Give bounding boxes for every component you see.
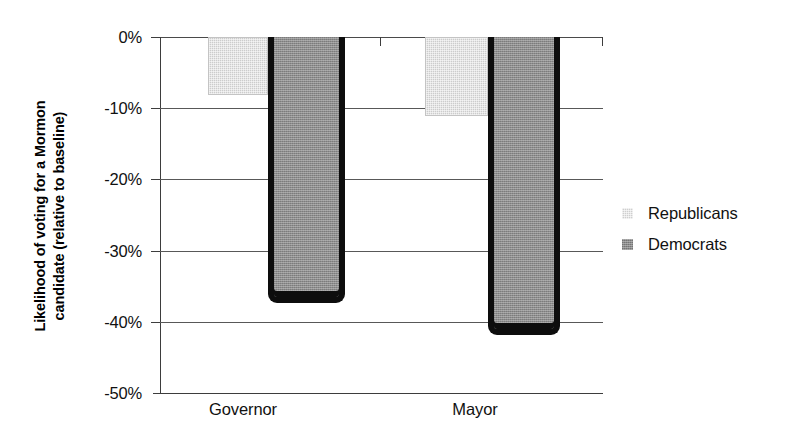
x-tick-label-governor: Governor bbox=[168, 400, 318, 419]
y-tick-label-5: -50% bbox=[56, 384, 142, 403]
plot-area: 0% -10% -20% -30% -40% -50% bbox=[160, 37, 603, 393]
axis-corner-tick-left bbox=[160, 37, 161, 46]
y-tick-mark-1 bbox=[151, 108, 160, 109]
axis-corner-tick-right bbox=[602, 37, 603, 46]
y-tick-label-4: -40% bbox=[56, 313, 142, 332]
y-tick-mark-2 bbox=[151, 179, 160, 180]
y-tick-mark-3 bbox=[151, 251, 160, 252]
y-tick-label-2: -20% bbox=[56, 170, 142, 189]
legend-swatch-republicans-icon bbox=[622, 208, 633, 219]
y-tick-mark-5 bbox=[153, 393, 166, 394]
legend-label-republicans: Republicans bbox=[648, 204, 738, 223]
bar-mayor-republicans[interactable] bbox=[425, 37, 488, 116]
bar-chart: Likelihood of voting for a Mormon candid… bbox=[0, 0, 785, 445]
y-tick-mark-0 bbox=[151, 37, 160, 38]
bar-governor-republicans[interactable] bbox=[208, 37, 268, 95]
bar-mayor-democrats[interactable] bbox=[488, 37, 560, 335]
legend-swatch-democrats-icon bbox=[622, 239, 633, 250]
legend: Republicans Democrats bbox=[622, 198, 738, 260]
y-tick-label-3: -30% bbox=[56, 242, 142, 261]
legend-item-democrats[interactable]: Democrats bbox=[622, 229, 738, 260]
y-tick-mark-4 bbox=[151, 322, 160, 323]
y-axis-title: Likelihood of voting for a Mormon candid… bbox=[22, 19, 78, 414]
x-tick-label-mayor: Mayor bbox=[400, 400, 550, 419]
legend-item-republicans[interactable]: Republicans bbox=[622, 198, 738, 229]
y-tick-label-0: 0% bbox=[56, 28, 142, 47]
legend-label-democrats: Democrats bbox=[648, 235, 727, 254]
bar-governor-democrats[interactable] bbox=[268, 37, 345, 303]
axis-corner-tick-mid bbox=[380, 37, 381, 46]
gridline-minus50: -50% bbox=[160, 393, 603, 394]
y-tick-label-1: -10% bbox=[56, 99, 142, 118]
